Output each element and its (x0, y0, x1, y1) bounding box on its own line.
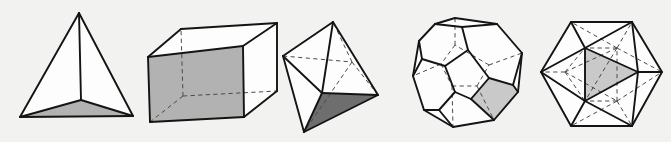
figure-svg (0, 0, 671, 142)
cube-face-front-shaded (148, 46, 244, 122)
platonic-solids-figure (0, 0, 671, 142)
tetrahedron-edge-base-front (20, 116, 133, 117)
cube-edge-middle-vertical (243, 46, 244, 117)
